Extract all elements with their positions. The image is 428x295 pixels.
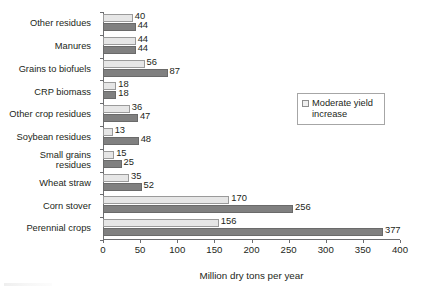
bar-row: 1348	[103, 126, 400, 149]
category-label: Other crop residues	[0, 103, 97, 126]
x-tick	[214, 240, 215, 243]
category-label: CRP biomass	[0, 80, 97, 103]
bar-light	[103, 60, 145, 68]
bar-row: 170256	[103, 194, 400, 217]
legend-entry: Moderate yield increase	[302, 98, 380, 120]
x-tick	[177, 240, 178, 243]
bar-dark	[103, 114, 138, 122]
bar-row: 1525	[103, 149, 400, 172]
y-tick	[100, 35, 103, 36]
y-tick	[100, 58, 103, 59]
bar-light	[103, 151, 114, 159]
bar-row: 4444	[103, 35, 400, 58]
x-tick-label: 100	[169, 244, 185, 255]
bar-dark	[103, 69, 168, 77]
bar-row: 156377	[103, 217, 400, 240]
x-tick	[326, 240, 327, 243]
x-tick	[140, 240, 141, 243]
category-label: Grains to biofuels	[0, 58, 97, 81]
y-tick	[100, 126, 103, 127]
plot-area: 4044444456871818364713481525355217025615…	[103, 12, 400, 240]
bar-value-label: 47	[138, 110, 150, 121]
legend-swatch-icon	[302, 100, 309, 107]
y-tick	[100, 12, 103, 13]
bar-row: 3552	[103, 172, 400, 195]
bar-value-label: 44	[136, 19, 148, 30]
x-axis-title: Million dry tons per year	[103, 270, 400, 281]
legend-label: Moderate yield increase	[312, 98, 380, 120]
category-label: Wheat straw	[0, 172, 97, 195]
y-tick	[100, 217, 103, 218]
bar-dark	[103, 91, 116, 99]
bar-value-label: 256	[293, 201, 311, 212]
bar-value-label: 48	[139, 133, 151, 144]
chart-legend: Moderate yield increase	[297, 93, 385, 125]
category-label: Corn stover	[0, 194, 97, 217]
y-tick	[100, 103, 103, 104]
category-label: Other residues	[0, 12, 97, 35]
x-tick-label: 250	[281, 244, 297, 255]
x-tick-label: 150	[206, 244, 222, 255]
x-tick	[363, 240, 364, 243]
bar-light	[103, 37, 136, 45]
bar-dark	[103, 205, 293, 213]
category-axis-labels: Other residues Manures Grains to biofuel…	[0, 12, 97, 240]
category-label: Small grains residues	[0, 149, 97, 172]
bar-value-label: 25	[122, 156, 134, 167]
bar-dark	[103, 137, 139, 145]
bar-value-label: 170	[229, 192, 247, 203]
bar-chart: Other residues Manures Grains to biofuel…	[0, 0, 428, 295]
bar-dark	[103, 23, 136, 31]
bar-dark	[103, 183, 142, 191]
x-tick	[400, 240, 401, 243]
category-label: Perennial crops	[0, 217, 97, 240]
category-label: Soybean residues	[0, 126, 97, 149]
bar-value-label: 13	[113, 124, 125, 135]
bar-value-label: 377	[383, 224, 401, 235]
bar-dark	[103, 46, 136, 54]
bar-light	[103, 128, 113, 136]
bar-light	[103, 174, 129, 182]
bar-rows: 4044444456871818364713481525355217025615…	[103, 12, 400, 240]
y-tick	[100, 149, 103, 150]
x-tick	[252, 240, 253, 243]
bar-value-label: 52	[142, 179, 154, 190]
bar-dark	[103, 228, 383, 236]
y-tick	[100, 80, 103, 81]
bar-light	[103, 196, 229, 204]
bar-value-label: 44	[136, 42, 148, 53]
x-tick-label: 400	[392, 244, 408, 255]
bar-row: 4044	[103, 12, 400, 35]
page-artifact	[4, 283, 52, 286]
bar-value-label: 18	[116, 87, 128, 98]
x-tick-label: 0	[100, 244, 105, 255]
bar-light	[103, 82, 116, 90]
x-tick-label: 350	[355, 244, 371, 255]
bar-row: 5687	[103, 58, 400, 81]
bar-value-label: 56	[145, 56, 157, 67]
bar-dark	[103, 160, 122, 168]
y-tick	[100, 194, 103, 195]
bar-value-label: 156	[219, 215, 237, 226]
x-tick-label: 200	[243, 244, 259, 255]
x-tick-label: 300	[318, 244, 334, 255]
bar-value-label: 35	[129, 170, 141, 181]
x-tick-label: 50	[135, 244, 146, 255]
bar-light	[103, 14, 133, 22]
x-tick	[103, 240, 104, 243]
bar-light	[103, 219, 219, 227]
category-label: Manures	[0, 35, 97, 58]
x-tick	[289, 240, 290, 243]
y-tick	[100, 172, 103, 173]
bar-light	[103, 105, 130, 113]
bar-value-label: 87	[168, 65, 180, 76]
